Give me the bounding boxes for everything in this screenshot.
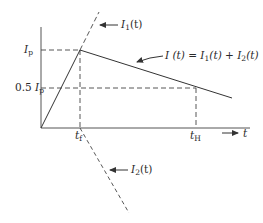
ip-label: Ip: [23, 43, 33, 57]
total-label: I (t) = I1(t) + I2(t): [164, 49, 259, 63]
i1-curve: [80, 12, 99, 50]
t-axis-label: t: [243, 127, 248, 139]
total-current-curve: [41, 50, 232, 128]
th-label: tH: [190, 129, 201, 143]
i1-label: I1(t): [120, 18, 142, 32]
half-ip-label: 0.5 Ip: [15, 81, 44, 95]
total-pointer-arrow: [137, 56, 163, 62]
i2-label: I2(t): [130, 163, 152, 177]
waveform-diagram: Ip 0.5 Ip tf tH t I1(t) I (t) = I1(t) + …: [0, 0, 263, 223]
